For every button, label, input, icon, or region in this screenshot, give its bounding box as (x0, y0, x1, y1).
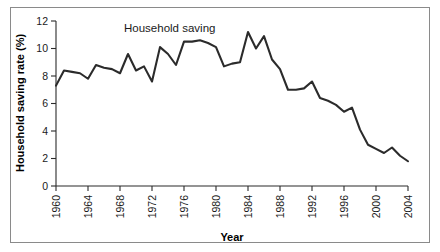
x-tick-label: 1992 (306, 195, 318, 219)
x-tick-label: 1976 (178, 195, 190, 219)
x-tick-label: 2004 (402, 195, 414, 219)
x-tick-label: 1964 (82, 195, 94, 219)
line-chart: 024681012 196019641968197219761980198419… (0, 0, 440, 252)
x-axis: 1960196419681972197619801984198819921996… (50, 186, 414, 218)
y-tick-label: 0 (42, 180, 48, 192)
x-tick-label: 1968 (114, 195, 126, 219)
series-annotation: Household saving (124, 22, 215, 34)
y-axis-title: Household saving rate (%) (14, 34, 26, 172)
y-tick-label: 8 (42, 70, 48, 82)
x-tick-label: 1972 (146, 195, 158, 219)
y-tick-label: 6 (42, 97, 48, 109)
y-axis: 024681012 (36, 15, 56, 192)
x-tick-label: 1960 (50, 195, 62, 219)
household-saving-line (56, 32, 408, 161)
y-tick-label: 10 (36, 42, 48, 54)
x-tick-label: 1988 (274, 195, 286, 219)
x-tick-label: 1996 (338, 195, 350, 219)
x-tick-label: 1980 (210, 195, 222, 219)
x-tick-label: 1984 (242, 195, 254, 219)
x-axis-title: Year (220, 231, 244, 243)
figure-container: 024681012 196019641968197219761980198419… (0, 0, 440, 252)
y-tick-label: 12 (36, 15, 48, 27)
x-tick-label: 2000 (370, 195, 382, 219)
y-tick-label: 4 (42, 125, 48, 137)
y-tick-label: 2 (42, 152, 48, 164)
